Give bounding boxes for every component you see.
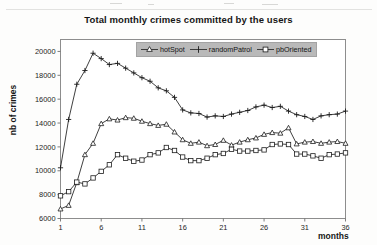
y-tick-label: 20000 <box>35 47 56 56</box>
data-point-square <box>107 163 111 167</box>
x-tick-label: 1 <box>58 223 62 232</box>
data-point-square <box>66 189 70 193</box>
data-point-square <box>229 147 233 151</box>
data-point-square <box>140 158 144 162</box>
data-point-square <box>156 151 160 155</box>
y-tick-label: 16000 <box>35 95 56 104</box>
legend-entry-randompatrol: randomPatrol <box>190 45 252 54</box>
data-point-square <box>148 152 152 156</box>
square-marker-icon <box>257 45 274 54</box>
data-point-square <box>286 142 290 146</box>
x-tick-label: 26 <box>260 223 268 232</box>
data-point-square <box>132 159 136 163</box>
data-point-square <box>270 142 274 146</box>
data-point-square <box>278 142 282 146</box>
y-tick-label: 6000 <box>39 214 55 223</box>
plot-area: 60008000100001200014000160001800020000 1… <box>0 0 377 245</box>
triangle-marker-icon <box>141 45 158 54</box>
legend-label-randompatrol: randomPatrol <box>209 45 252 54</box>
chart-legend: hotSpot randomPatrol pbOriented <box>136 42 317 57</box>
chart-figure: Total monthly crimes committed by the us… <box>0 0 377 245</box>
data-point-square <box>311 154 315 158</box>
legend-label-hotspot: hotSpot <box>160 45 185 54</box>
legend-entry-pboriented: pbOriented <box>257 45 312 54</box>
x-tick-label: 21 <box>219 223 227 232</box>
y-tick-label: 12000 <box>35 143 56 152</box>
data-point-square <box>294 152 298 156</box>
data-point-square <box>221 151 225 155</box>
legend-entry-hotspot: hotSpot <box>141 45 185 54</box>
data-point-square <box>343 151 347 155</box>
data-point-square <box>189 158 193 162</box>
data-point-square <box>237 149 241 153</box>
y-tick-group: 60008000100001200014000160001800020000 <box>35 47 61 223</box>
data-point-square <box>91 176 95 180</box>
data-point-square <box>254 148 258 152</box>
data-point-square <box>327 152 331 156</box>
data-point-square <box>180 155 184 159</box>
x-tick-label: 11 <box>138 223 146 232</box>
y-tick-label: 10000 <box>35 166 56 175</box>
x-tick-group: 16111621263136 <box>58 219 349 233</box>
data-point-square <box>123 156 127 160</box>
x-tick-label: 16 <box>179 223 187 232</box>
plus-marker-icon <box>190 45 207 54</box>
data-point-square <box>213 152 217 156</box>
legend-label-pboriented: pbOriented <box>276 45 312 54</box>
data-point-square <box>115 152 119 156</box>
y-tick-label: 18000 <box>35 71 56 80</box>
plot-frame <box>61 40 346 219</box>
data-point-square <box>335 152 339 156</box>
data-point-square <box>246 149 250 153</box>
data-point-square <box>75 180 79 184</box>
x-tick-label: 31 <box>301 223 309 232</box>
data-point-square <box>58 194 62 198</box>
y-tick-label: 8000 <box>39 190 55 199</box>
y-tick-label: 14000 <box>35 119 56 128</box>
data-point-square <box>319 156 323 160</box>
data-point-square <box>205 156 209 160</box>
data-point-square <box>83 182 87 186</box>
data-point-square <box>164 145 168 149</box>
data-point-square <box>172 148 176 152</box>
data-point-square <box>197 158 201 162</box>
data-point-square <box>262 148 266 152</box>
data-point-square <box>99 169 103 173</box>
x-tick-label: 6 <box>99 223 103 232</box>
data-point-square <box>303 152 307 156</box>
x-tick-label: 36 <box>341 223 349 232</box>
